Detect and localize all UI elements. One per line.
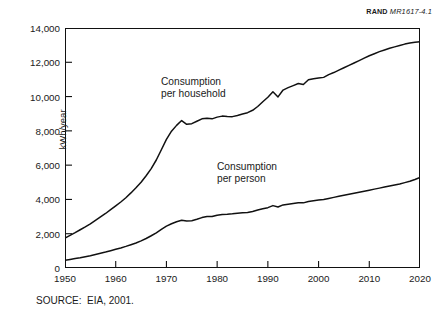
rand-logo-text: RAND [366, 7, 387, 16]
y-tick-label: 14,000 [30, 23, 60, 34]
series-annotation-person: Consumption per person [217, 161, 277, 186]
data-series-group [65, 42, 420, 261]
series-line-household [65, 42, 420, 238]
annotation-person-line2: per person [217, 173, 277, 185]
report-number: MR1617-4.1 [390, 7, 432, 16]
series-annotation-household: Consumption per household [161, 76, 226, 101]
annotation-household-line2: per household [161, 88, 226, 100]
y-tick-label: 0 [55, 263, 60, 274]
x-tick-label: 1980 [206, 273, 228, 284]
y-tick-label: 8,000 [35, 125, 60, 136]
y-tick-label: 4,000 [35, 194, 60, 205]
x-tick-label: 1960 [105, 273, 127, 284]
x-tick-label: 1950 [54, 273, 76, 284]
x-tick-label: 2010 [358, 273, 380, 284]
annotation-household-line1: Consumption [161, 76, 226, 88]
y-tick-label: 6,000 [35, 160, 60, 171]
chart-svg [65, 28, 420, 268]
y-tick-label: 12,000 [30, 57, 60, 68]
x-tick-label: 1970 [156, 273, 178, 284]
x-tick-label: 1990 [257, 273, 279, 284]
report-identifier: RAND MR1617-4.1 [366, 7, 432, 16]
y-tick-label: 10,000 [30, 91, 60, 102]
plot-area: kWh/year 02,0004,0006,0008,00010,00012,0… [65, 28, 420, 268]
figure-container: RAND MR1617-4.1 kWh/year 02,0004,0006,00… [0, 0, 438, 324]
y-tick-label: 2,000 [35, 228, 60, 239]
series-line-person [65, 177, 420, 260]
annotation-person-line1: Consumption [217, 161, 277, 173]
x-tick-label: 2020 [409, 273, 431, 284]
source-note: SOURCE: EIA, 2001. [36, 295, 134, 306]
x-tick-label: 2000 [308, 273, 330, 284]
